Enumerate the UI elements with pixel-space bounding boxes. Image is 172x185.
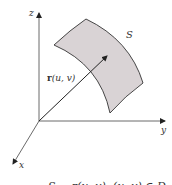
surface-label: S — [126, 29, 133, 40]
caption-clip: S = r(u, v), (u, v) ∈ D — [0, 178, 172, 185]
x-axis — [13, 121, 39, 164]
parametric-surface-diagram: z y x S r(u, v) — [0, 0, 172, 185]
y-axis-label: y — [160, 125, 167, 135]
x-axis-label: x — [19, 160, 24, 170]
position-vector-arrow — [39, 56, 107, 121]
vector-label: r(u, v) — [47, 73, 76, 83]
z-axis-label: z — [28, 8, 34, 18]
figure-caption: S = r(u, v), (u, v) ∈ D — [48, 180, 166, 185]
